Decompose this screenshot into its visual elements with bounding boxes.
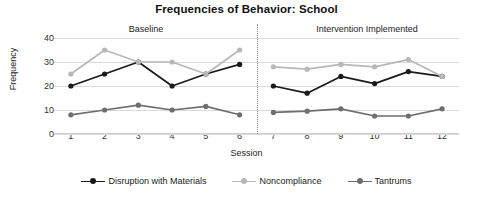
data-point: [203, 104, 208, 109]
data-point: [406, 57, 411, 62]
series-tantrums: [68, 103, 444, 119]
series-line: [71, 50, 240, 74]
data-point: [305, 109, 310, 114]
data-point: [440, 74, 445, 79]
data-point: [237, 47, 242, 52]
data-series-layer: [54, 38, 459, 134]
data-point: [271, 64, 276, 69]
legend-item[interactable]: Noncompliance: [232, 176, 321, 186]
data-point: [406, 69, 411, 74]
legend-item[interactable]: Tantrums: [348, 176, 412, 186]
chart-legend: Disruption with MaterialsNoncomplianceTa…: [0, 176, 493, 186]
legend-item[interactable]: Disruption with Materials: [81, 176, 206, 186]
data-point: [102, 107, 107, 112]
chart-container: Frequencies of Behavior: School Baseline…: [0, 0, 493, 203]
y-axis-title: Frequency: [8, 34, 18, 104]
data-point: [68, 112, 73, 117]
series-disruption-with-materials: [68, 59, 444, 95]
data-point: [372, 64, 377, 69]
gridline: [54, 134, 459, 135]
x-axis-title: Session: [0, 148, 493, 158]
y-axis-tick-label: 10: [26, 105, 54, 115]
data-point: [338, 62, 343, 67]
data-point: [338, 106, 343, 111]
y-axis-tick-label: 40: [26, 33, 54, 43]
plot-area: [54, 38, 459, 134]
phase-label-intervention: Intervention Implemented: [272, 24, 462, 34]
data-point: [68, 71, 73, 76]
series-line: [71, 105, 240, 115]
data-point: [271, 110, 276, 115]
data-point: [170, 59, 175, 64]
chart-title: Frequencies of Behavior: School: [0, 3, 493, 15]
data-point: [406, 113, 411, 118]
legend-marker-icon: [81, 177, 105, 186]
legend-marker-icon: [348, 177, 372, 186]
series-line: [273, 109, 442, 116]
data-point: [136, 59, 141, 64]
data-point: [271, 83, 276, 88]
data-point: [203, 71, 208, 76]
data-point: [170, 107, 175, 112]
data-point: [372, 81, 377, 86]
legend-label: Noncompliance: [259, 176, 321, 186]
data-point: [68, 83, 73, 88]
y-axis-tick-label: 20: [26, 81, 54, 91]
data-point: [305, 67, 310, 72]
legend-label: Tantrums: [375, 176, 412, 186]
y-axis-tick-label: 0: [26, 129, 54, 139]
data-point: [237, 62, 242, 67]
series-line: [273, 72, 442, 94]
data-point: [338, 74, 343, 79]
series-noncompliance: [68, 47, 444, 79]
legend-marker-icon: [232, 177, 256, 186]
y-axis-tick-label: 30: [26, 57, 54, 67]
legend-label: Disruption with Materials: [108, 176, 206, 186]
series-line: [71, 62, 240, 86]
data-point: [440, 106, 445, 111]
data-point: [102, 71, 107, 76]
y-axis-tick-labels: 010203040: [26, 0, 54, 203]
data-point: [136, 103, 141, 108]
data-point: [237, 112, 242, 117]
data-point: [305, 91, 310, 96]
data-point: [102, 47, 107, 52]
phase-label-baseline: Baseline: [86, 24, 206, 34]
data-point: [372, 113, 377, 118]
series-line: [273, 60, 442, 77]
data-point: [170, 83, 175, 88]
